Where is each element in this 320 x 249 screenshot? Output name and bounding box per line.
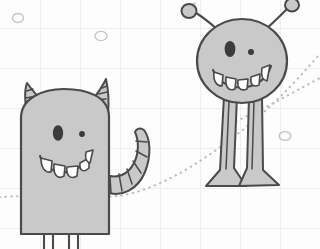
antenna-left-ball <box>182 4 197 18</box>
monster-illustration <box>0 0 320 249</box>
antenna-right-ball <box>285 0 299 12</box>
monster-left-body <box>21 89 109 234</box>
monster-left-eye-small <box>79 131 85 137</box>
monster-right-eye-large <box>225 41 236 57</box>
doodle-canvas <box>0 0 320 249</box>
monster-left-eye-large <box>53 125 63 141</box>
monster-right-eye-small <box>248 49 254 55</box>
